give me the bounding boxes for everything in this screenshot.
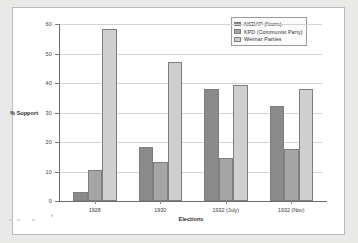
gridline — [60, 83, 322, 84]
bar — [219, 158, 234, 201]
scan-artifact — [9, 219, 13, 221]
bar — [204, 89, 219, 201]
x-tick — [291, 201, 292, 204]
scan-artifact — [51, 214, 53, 217]
y-tick-label: 40 — [46, 80, 52, 86]
x-axis-line — [59, 201, 327, 202]
y-tick — [55, 113, 60, 114]
bar — [153, 162, 168, 201]
x-tick — [160, 201, 161, 204]
scan-artifact — [32, 219, 35, 221]
y-tick — [55, 172, 60, 173]
y-tick — [55, 201, 60, 202]
bar — [233, 85, 248, 201]
bar — [284, 149, 299, 201]
plot-area: % Support Elections 0102030405060 192819… — [60, 24, 322, 201]
x-tick-label: 1928 — [89, 207, 101, 213]
y-tick-label: 60 — [46, 21, 52, 27]
y-tick — [55, 54, 60, 55]
x-tick-label: 1930 — [154, 207, 166, 213]
y-tick — [55, 83, 60, 84]
chart-figure: NSDAP (Nazis) KPD (Communist Party) Weim… — [12, 7, 345, 235]
y-tick — [55, 24, 60, 25]
gridline — [60, 24, 322, 25]
bar — [88, 170, 103, 201]
y-tick-label: 0 — [49, 198, 52, 204]
bar — [299, 89, 314, 201]
y-tick-label: 20 — [46, 139, 52, 145]
x-tick-label: 1932 (Nov) — [278, 207, 305, 213]
x-tick — [226, 201, 227, 204]
bar — [102, 29, 117, 201]
bar — [139, 147, 154, 201]
bar — [270, 106, 285, 201]
bar — [73, 192, 88, 201]
scan-artifact — [17, 219, 20, 221]
y-tick-label: 10 — [46, 169, 52, 175]
x-axis-title: Elections — [179, 216, 204, 222]
bar — [168, 62, 183, 201]
y-axis-title: % Support — [10, 110, 38, 116]
y-tick-label: 30 — [46, 110, 52, 116]
x-tick-label: 1932 (July) — [212, 207, 239, 213]
y-tick — [55, 142, 60, 143]
y-tick-label: 50 — [46, 51, 52, 57]
gridline — [60, 54, 322, 55]
x-tick — [95, 201, 96, 204]
